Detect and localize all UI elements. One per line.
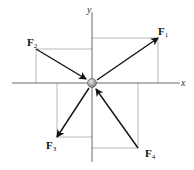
f4-vector bbox=[96, 89, 138, 148]
force-diagram: x y F1 F2 F3 F4 bbox=[0, 0, 194, 170]
f3-label: F3 bbox=[46, 139, 57, 153]
x-axis-label: x bbox=[180, 77, 186, 88]
f1-vector bbox=[97, 38, 158, 80]
f2-vector bbox=[36, 49, 86, 79]
f3-vector bbox=[57, 88, 89, 137]
f2-label: F2 bbox=[27, 36, 38, 50]
force-vectors bbox=[36, 38, 158, 148]
y-axis-label: y bbox=[86, 4, 92, 15]
component-guides bbox=[36, 38, 158, 148]
f1-label: F1 bbox=[158, 25, 169, 39]
particle bbox=[88, 79, 97, 88]
f4-label: F4 bbox=[145, 147, 156, 161]
